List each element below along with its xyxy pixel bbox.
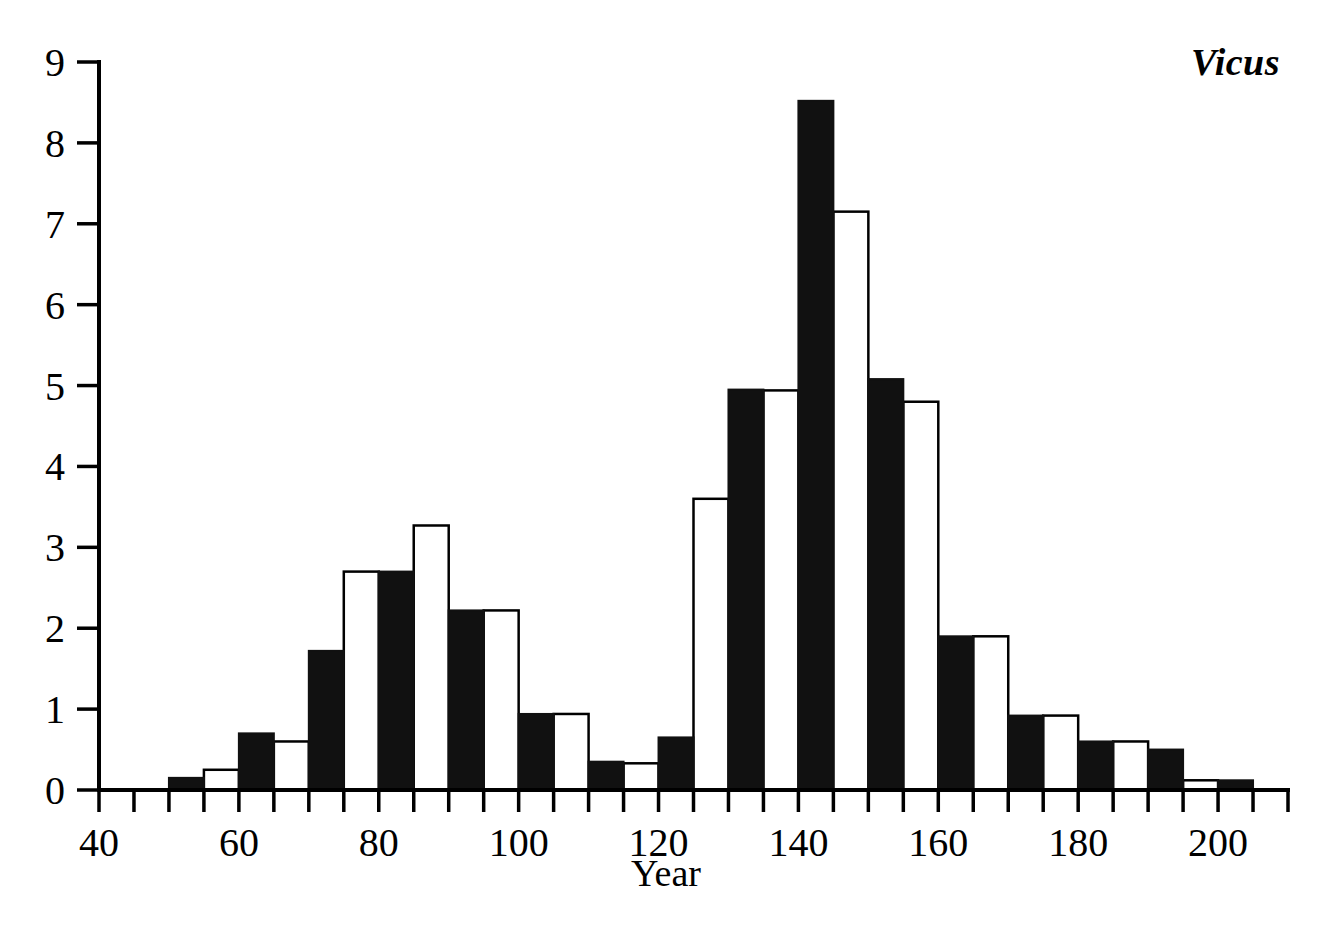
histogram-bar [694,499,729,790]
x-tick-label-180: 180 [1048,820,1108,865]
histogram-bar [589,762,624,790]
histogram-bar [1113,741,1148,790]
histogram-bar [484,610,519,790]
histogram-bar [519,714,554,790]
x-tick-label-100: 100 [489,820,549,865]
histogram-bar [344,572,379,790]
histogram-bar [239,733,274,790]
histogram-bar [1008,716,1043,790]
histogram-bar [833,212,868,790]
y-tick-label-0: 0 [45,768,65,813]
histogram-bar [1043,716,1078,790]
histogram-bar [554,714,589,790]
y-tick-label-9: 9 [45,40,65,85]
histogram-bar [449,610,484,790]
histogram-bar [868,379,903,790]
x-axis-title: Year [631,852,701,894]
histogram-bar [624,763,659,790]
x-tick-label-40: 40 [79,820,119,865]
histogram-bar [763,390,798,790]
histogram-bar [1148,750,1183,790]
y-tick-label-7: 7 [45,202,65,247]
histogram-bar [204,770,239,790]
y-tick-label-6: 6 [45,283,65,328]
histogram-bar [414,525,449,790]
x-tick-label-80: 80 [359,820,399,865]
y-tick-label-8: 8 [45,121,65,166]
histogram-plot-area: 0123456789 406080100120140160180200 Year [0,0,1332,940]
chart-figure: Vicus 0123456789 40608010012014016018020… [0,0,1332,940]
histogram-bar [728,390,763,790]
x-tick-label-60: 60 [219,820,259,865]
histogram-bar [798,101,833,790]
y-tick-label-1: 1 [45,687,65,732]
x-tick-label-200: 200 [1188,820,1248,865]
histogram-bar [379,572,414,790]
y-axis-tick-labels: 0123456789 [45,40,65,813]
histogram-bar [309,651,344,790]
histogram-bar [1078,741,1113,790]
y-tick-label-5: 5 [45,364,65,409]
caption-strip [0,904,1332,940]
x-tick-label-140: 140 [768,820,828,865]
y-axis-ticks [77,62,99,790]
x-tick-label-160: 160 [908,820,968,865]
y-tick-label-3: 3 [45,525,65,570]
histogram-bar [973,636,1008,790]
y-tick-label-4: 4 [45,444,65,489]
histogram-bar [659,737,694,790]
histogram-bar [938,636,973,790]
bars-group [169,101,1253,790]
histogram-bar [903,402,938,790]
histogram-bar [274,741,309,790]
x-axis-ticks [99,790,1288,812]
y-tick-label-2: 2 [45,606,65,651]
